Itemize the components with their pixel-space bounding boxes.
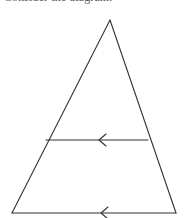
- triangle-right-side: [110, 20, 176, 213]
- triangle-left-side: [12, 20, 110, 213]
- triangle-figure: [0, 0, 185, 218]
- diagram-canvas: Consider the diagram.: [0, 0, 185, 218]
